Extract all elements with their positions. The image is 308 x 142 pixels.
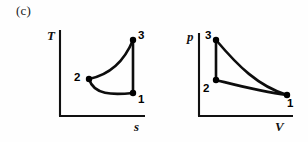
ts-process-1-to-2 (89, 79, 133, 94)
ts-state-label-3: 3 (138, 29, 144, 41)
pv-state-point-3 (213, 37, 219, 43)
pv-state-point-2 (213, 77, 219, 83)
ts-state-point-1 (130, 90, 136, 96)
ts-process-2-to-3 (89, 40, 133, 79)
pv-process-2-to-1 (216, 80, 287, 95)
pv-y-axis-label: p (186, 29, 194, 44)
pv-x-axis-label: V (275, 119, 285, 134)
pv-diagram: 1 2 3 p V (186, 29, 294, 134)
ts-diagram: 1 2 3 T s (47, 28, 145, 134)
ts-y-axis-label: T (47, 28, 56, 43)
pv-state-label-2: 2 (203, 82, 209, 94)
ts-x-axis-label: s (133, 119, 139, 134)
figure-panel-c: (c) 1 2 3 T s (0, 0, 308, 142)
thermodynamic-cycle-diagrams: 1 2 3 T s 1 2 3 p V (0, 0, 308, 142)
ts-state-label-2: 2 (74, 71, 80, 83)
ts-state-point-2 (86, 76, 92, 82)
pv-state-label-1: 1 (287, 97, 294, 109)
ts-state-point-3 (130, 37, 136, 43)
ts-state-label-1: 1 (138, 93, 145, 105)
pv-process-3-to-1 (216, 40, 287, 95)
pv-state-label-3: 3 (205, 29, 211, 41)
